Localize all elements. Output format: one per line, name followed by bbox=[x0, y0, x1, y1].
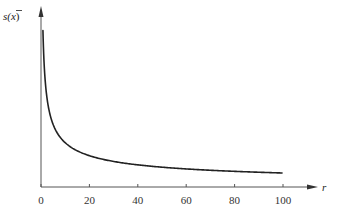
x-tick-label: 20 bbox=[84, 194, 96, 206]
x-tick-labels: 020406080100 bbox=[38, 194, 292, 206]
x-tick-label: 60 bbox=[181, 194, 193, 206]
y-axis-arrow-icon bbox=[39, 6, 44, 17]
y-label-close: ) bbox=[16, 10, 20, 23]
x-axis-arrow-icon bbox=[307, 185, 318, 190]
y-axis-label: s(x) bbox=[3, 10, 22, 23]
x-tick-label: 80 bbox=[229, 194, 241, 206]
x-tick-label: 0 bbox=[38, 194, 44, 206]
x-tick-label: 100 bbox=[275, 194, 292, 206]
data-curve bbox=[43, 30, 282, 172]
x-tick-label: 40 bbox=[132, 194, 144, 206]
x-axis bbox=[41, 185, 318, 190]
chart: 020406080100 r s(x) bbox=[0, 0, 341, 220]
svg-text:s(x): s(x) bbox=[3, 10, 20, 23]
x-axis-label: r bbox=[322, 181, 327, 193]
